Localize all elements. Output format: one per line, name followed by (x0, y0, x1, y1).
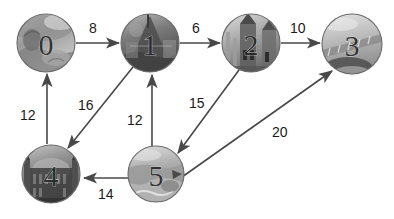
node-5[interactable]: 5 (128, 146, 184, 203)
graph-canvas: 0 1 (0, 0, 394, 219)
edge-5-to-3 (182, 71, 332, 177)
edge-label-0-1: 8 (89, 20, 97, 36)
node-4-label: 4 (44, 159, 59, 192)
edge-label-1-4: 16 (78, 97, 94, 113)
edge-2-to-5 (178, 70, 239, 153)
edge-label-2-5: 15 (189, 95, 205, 111)
node-0-label: 0 (39, 28, 54, 61)
edge-label-5-4: 14 (98, 186, 114, 202)
edge-label-5-3: 20 (272, 124, 288, 140)
node-4[interactable]: 4 (22, 145, 80, 204)
graph-svg: 0 1 (0, 0, 394, 219)
node-3-label: 3 (345, 29, 360, 62)
node-2-label: 2 (244, 28, 259, 61)
node-2[interactable]: 2 (222, 13, 280, 74)
edge-label-5-1: 12 (127, 112, 143, 128)
edge-label-4-0: 12 (20, 107, 36, 123)
node-1[interactable]: 1 (121, 12, 179, 73)
node-0[interactable]: 0 (12, 14, 76, 75)
node-1-label: 1 (143, 28, 158, 61)
edge-label-2-3: 10 (290, 20, 306, 36)
node-5-label: 5 (149, 159, 164, 192)
edge-label-1-2: 6 (192, 20, 200, 36)
node-3[interactable]: 3 (322, 14, 382, 86)
